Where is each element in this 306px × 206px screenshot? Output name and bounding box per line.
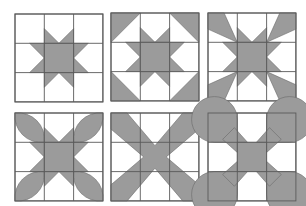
block-3	[208, 13, 296, 101]
center-square	[44, 43, 73, 72]
block-4	[15, 113, 103, 201]
quilt-blocks-figure	[0, 0, 306, 206]
center-square	[237, 142, 266, 171]
center-square	[44, 142, 73, 171]
center-square	[140, 42, 169, 71]
center-square	[237, 42, 266, 71]
block-1	[15, 14, 103, 102]
block-5	[111, 113, 199, 201]
block-6	[192, 97, 306, 206]
block-2	[111, 13, 199, 101]
